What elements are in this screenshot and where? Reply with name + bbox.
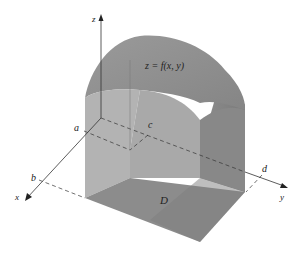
- line-x-equals-b: [39, 180, 85, 198]
- y-axis-arrow-icon: [280, 183, 288, 188]
- z-axis-arrow-icon: [99, 14, 104, 21]
- surface-label: z = f(x, y): [144, 60, 185, 72]
- bound-c-label: c: [148, 119, 153, 130]
- front-face: [130, 90, 200, 178]
- line-y-equals-d: [246, 175, 262, 192]
- right-side-lower: [200, 108, 245, 192]
- y-axis-label: y: [279, 192, 284, 202]
- bound-b-label: b: [31, 172, 36, 183]
- bound-d-label: d: [262, 163, 268, 174]
- region-label: D: [159, 194, 168, 206]
- z-axis-label: z: [91, 14, 96, 24]
- bound-a-label: a: [74, 122, 79, 133]
- solid-under-surface-diagram: z = f(x, y) D z x y a b c d: [0, 0, 304, 255]
- y-axis: [245, 172, 284, 186]
- x-axis-label: x: [14, 192, 19, 202]
